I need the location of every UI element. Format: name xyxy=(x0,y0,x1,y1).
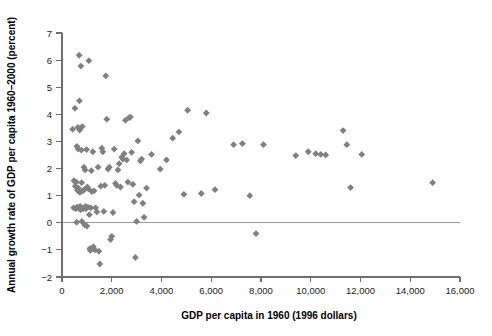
data-point xyxy=(72,105,79,112)
data-point xyxy=(133,218,140,225)
data-point xyxy=(212,186,219,193)
data-point xyxy=(78,63,85,70)
x-tick-label: 0 xyxy=(59,285,64,296)
y-tick-label: 6 xyxy=(47,55,52,66)
y-tick-label: 5 xyxy=(47,82,52,93)
data-point xyxy=(292,152,299,159)
data-point xyxy=(76,97,83,104)
data-point xyxy=(163,156,170,163)
data-point xyxy=(73,219,80,226)
data-point xyxy=(347,184,354,191)
data-point xyxy=(305,148,312,155)
data-point xyxy=(312,150,319,157)
data-point xyxy=(169,135,176,142)
x-tick-label: 8,000 xyxy=(249,285,273,296)
data-point xyxy=(136,192,143,199)
data-point xyxy=(141,214,148,221)
y-tick-label: 4 xyxy=(47,109,52,120)
data-point xyxy=(128,149,135,156)
data-point xyxy=(132,254,139,261)
data-point xyxy=(88,167,95,174)
data-point xyxy=(116,160,123,167)
y-tick-label: −2 xyxy=(41,272,52,283)
y-tick-label: −1 xyxy=(41,244,52,255)
data-point xyxy=(100,208,107,215)
data-point xyxy=(253,230,260,237)
y-tick-label: 0 xyxy=(47,217,52,228)
data-point xyxy=(131,198,138,205)
x-axis-ticks xyxy=(62,277,460,282)
data-point xyxy=(103,116,110,123)
data-point xyxy=(184,107,191,114)
x-tick-label: 12,000 xyxy=(346,285,375,296)
scatter-plot-figure: 02,0004,0006,0008,00010,00012,00014,0001… xyxy=(0,0,492,336)
y-tick-label: 1 xyxy=(47,190,52,201)
data-point xyxy=(239,140,246,147)
x-axis-title: GDP per capita in 1960 (1996 dollars) xyxy=(181,310,356,321)
y-tick-label: 3 xyxy=(47,136,52,147)
y-tick-label: 2 xyxy=(47,163,52,174)
x-tick-label: 6,000 xyxy=(199,285,223,296)
x-tick-label: 16,000 xyxy=(445,285,474,296)
data-point xyxy=(322,152,329,159)
data-point xyxy=(143,185,150,192)
y-tick-label: 7 xyxy=(47,28,52,39)
data-point xyxy=(76,52,83,59)
y-axis-ticks xyxy=(56,33,62,277)
x-axis-tick-labels: 02,0004,0006,0008,00010,00012,00014,0001… xyxy=(59,285,474,296)
data-point xyxy=(343,141,350,148)
data-point xyxy=(85,57,92,64)
data-point xyxy=(157,166,164,173)
data-point xyxy=(83,146,90,153)
x-tick-label: 14,000 xyxy=(396,285,425,296)
x-tick-label: 10,000 xyxy=(296,285,325,296)
plot-canvas: 02,0004,0006,0008,00010,00012,00014,0001… xyxy=(0,0,492,336)
data-point xyxy=(95,164,102,171)
data-point xyxy=(246,192,253,199)
data-point xyxy=(110,209,117,216)
data-point xyxy=(148,151,155,158)
data-point xyxy=(230,141,237,148)
y-axis-tick-labels: −2−101234567 xyxy=(41,28,52,283)
data-points-group xyxy=(69,52,436,268)
data-point xyxy=(203,110,210,117)
data-point xyxy=(102,72,109,79)
x-tick-label: 2,000 xyxy=(100,285,124,296)
data-point xyxy=(78,179,85,186)
data-point xyxy=(429,179,436,186)
data-point xyxy=(180,191,187,198)
x-tick-label: 4,000 xyxy=(150,285,174,296)
data-point xyxy=(176,129,183,136)
data-point xyxy=(134,138,141,145)
data-point xyxy=(96,261,103,268)
data-point xyxy=(260,141,267,148)
data-point xyxy=(198,190,205,197)
data-point xyxy=(358,151,365,158)
data-point xyxy=(111,146,118,153)
y-axis-title: Annual growth rate of GDP per capita 196… xyxy=(6,17,17,293)
data-point xyxy=(340,127,347,134)
data-point xyxy=(139,200,146,207)
data-point xyxy=(115,167,122,174)
data-point xyxy=(86,211,93,218)
data-point xyxy=(89,148,96,155)
